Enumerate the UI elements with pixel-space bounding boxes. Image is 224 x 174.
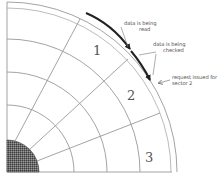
- label-request-issued: request issued for sector 2: [172, 74, 217, 86]
- leader-checked-b: [153, 54, 156, 75]
- sector-label-3: 3: [145, 150, 153, 165]
- label-data-read: data is being read: [124, 20, 156, 32]
- check-arrow: [131, 51, 150, 80]
- sector-line-3: [37, 113, 160, 161]
- sector-line-2: [29, 59, 128, 150]
- sector-line-1: [15, 19, 80, 141]
- disk-diagram: [0, 0, 224, 174]
- leader-request: [159, 80, 170, 83]
- sector-label-2: 2: [127, 88, 135, 103]
- sector-label-1: 1: [93, 43, 101, 58]
- label-data-checked: data is being checked: [153, 41, 185, 53]
